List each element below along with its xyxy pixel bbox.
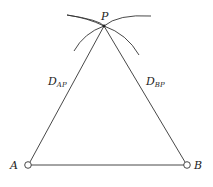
label-D-BP: DBP bbox=[145, 75, 165, 89]
label-D-BP-sub: BP bbox=[154, 81, 165, 89]
label-P: P bbox=[100, 10, 109, 23]
station-B-marker bbox=[184, 162, 191, 169]
arc-upper bbox=[67, 15, 151, 26]
edge-BP bbox=[104, 26, 185, 162]
trilateration-diagram: P A B DAP DBP bbox=[0, 0, 213, 187]
edge-AP bbox=[30, 26, 104, 162]
label-D-AP: DAP bbox=[47, 75, 67, 89]
station-A-marker bbox=[25, 162, 32, 169]
label-D-AP-sub: AP bbox=[56, 81, 67, 89]
arc-left-descending bbox=[74, 26, 104, 51]
label-B: B bbox=[193, 159, 202, 172]
arc-right-descending bbox=[104, 26, 139, 55]
label-D-AP-main: D bbox=[47, 75, 57, 88]
label-D-BP-main: D bbox=[145, 75, 155, 88]
arc-upper-left bbox=[67, 15, 104, 26]
label-A: A bbox=[9, 159, 18, 172]
point-P-marker bbox=[103, 25, 106, 28]
